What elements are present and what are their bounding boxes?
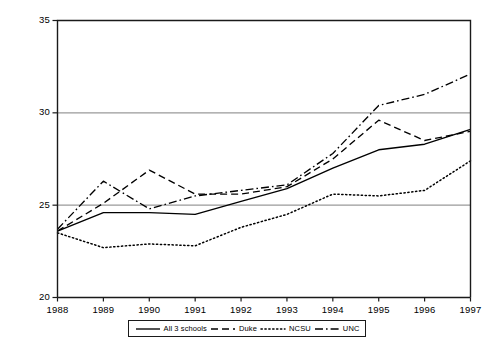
y-axis-label: 20 bbox=[22, 291, 50, 302]
x-axis-label: 1992 bbox=[221, 304, 261, 315]
axis-frame bbox=[58, 21, 471, 298]
legend-label: Duke bbox=[239, 324, 257, 333]
data-series-group bbox=[58, 74, 471, 248]
x-axis-label: 1988 bbox=[38, 304, 78, 315]
legend-item: All 3 schools bbox=[135, 324, 207, 333]
legend-item: Duke bbox=[210, 324, 257, 333]
x-axis-label: 1989 bbox=[83, 304, 123, 315]
legend-label: NCSU bbox=[289, 324, 311, 333]
y-axis-label: 35 bbox=[22, 14, 50, 25]
chart-plot-area bbox=[0, 0, 493, 352]
chart-legend: All 3 schoolsDukeNCSUUNC bbox=[128, 320, 366, 337]
legend-line-swatch bbox=[135, 325, 161, 333]
x-axis-label: 1991 bbox=[175, 304, 215, 315]
legend-label: UNC bbox=[343, 324, 360, 333]
legend-label: All 3 schools bbox=[164, 324, 207, 333]
series-line-unc bbox=[58, 74, 471, 229]
y-axis-label: 30 bbox=[22, 106, 50, 117]
legend-line-swatch bbox=[260, 325, 286, 333]
axis-ticks bbox=[53, 21, 471, 302]
y-axis-label: 25 bbox=[22, 199, 50, 210]
x-axis-label: 1995 bbox=[359, 304, 399, 315]
legend-line-swatch bbox=[210, 325, 236, 333]
series-line-ncsu bbox=[58, 161, 471, 248]
x-axis-label: 1990 bbox=[129, 304, 169, 315]
x-axis-label: 1994 bbox=[313, 304, 353, 315]
x-axis-label: 1993 bbox=[267, 304, 307, 315]
legend-item: NCSU bbox=[260, 324, 311, 333]
x-axis-label: 1997 bbox=[451, 304, 491, 315]
legend-item: UNC bbox=[314, 324, 360, 333]
x-axis-label: 1996 bbox=[405, 304, 445, 315]
series-line-all-3-schools bbox=[58, 129, 471, 231]
plot-border bbox=[58, 21, 471, 298]
series-line-duke bbox=[58, 120, 471, 231]
legend-line-swatch bbox=[314, 325, 340, 333]
line-chart: 20253035 1988198919901991199219931994199… bbox=[0, 0, 493, 352]
